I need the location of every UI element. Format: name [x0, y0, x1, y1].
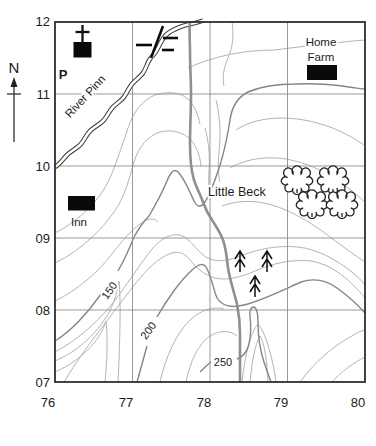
stream-label: Little Beck: [208, 185, 266, 199]
little-beck-stream: [190, 22, 240, 382]
river-label: River Pinn: [63, 73, 108, 120]
inn-label: Inn: [71, 216, 87, 228]
northing-labels: 12 11 10 09 08 07: [36, 14, 50, 390]
easting-label: 78: [197, 395, 211, 410]
deciduous-trees: [281, 166, 357, 219]
north-label: N: [9, 59, 20, 76]
farm-label-line1: Home: [306, 36, 337, 48]
north-arrow-icon: N: [7, 59, 21, 142]
church-icon: [74, 25, 92, 58]
easting-label: 79: [274, 395, 288, 410]
conifer-tree-icon: [235, 251, 245, 272]
northing-label: 11: [37, 87, 51, 102]
conifer-tree-icon: [250, 276, 260, 297]
farm-label: Home Farm: [306, 36, 337, 63]
deciduous-tree-icon: [281, 166, 312, 195]
parking-label: P: [59, 67, 68, 82]
contour-label-200: 200: [138, 319, 158, 341]
home-farm-building: [307, 65, 337, 80]
northing-label: 10: [36, 159, 50, 174]
conifer-tree-icon: [262, 251, 272, 272]
easting-labels: 76 77 78 79 80: [41, 395, 365, 410]
easting-label: 80: [351, 395, 365, 410]
northing-label: 12: [36, 14, 50, 29]
topographic-map: N 12 11 10 09 08 07 76 77 78 79 80 P Riv…: [0, 0, 376, 446]
northing-label: 09: [36, 231, 50, 246]
easting-label: 77: [119, 395, 133, 410]
deciduous-tree-icon: [326, 190, 357, 219]
conifer-trees: [235, 251, 272, 297]
inn-building: [68, 196, 95, 211]
farm-label-line2: Farm: [308, 51, 335, 63]
deciduous-tree-icon: [296, 190, 327, 219]
northing-label: 08: [36, 303, 50, 318]
northing-label: 07: [36, 375, 50, 390]
contour-label-250: 250: [214, 356, 232, 368]
easting-label: 76: [41, 395, 55, 410]
